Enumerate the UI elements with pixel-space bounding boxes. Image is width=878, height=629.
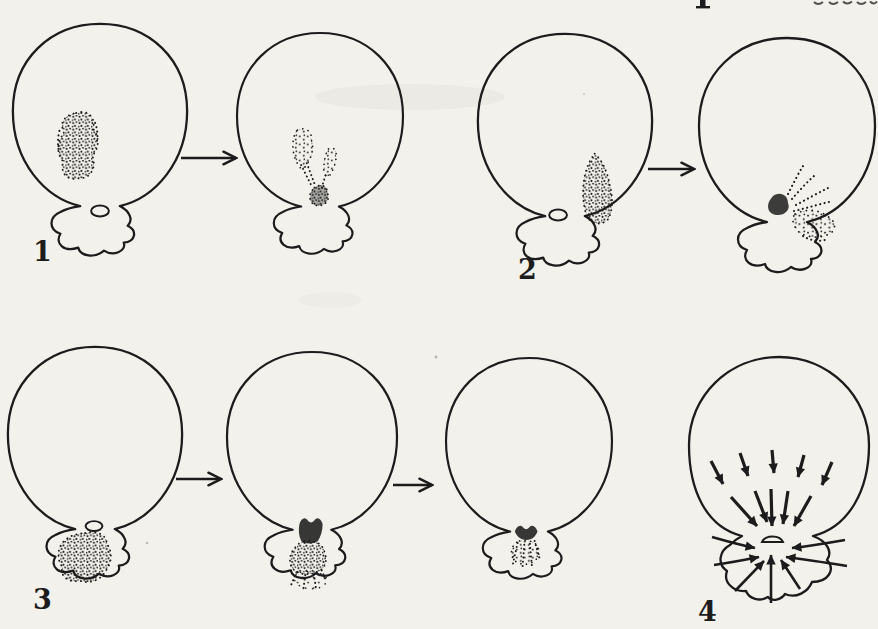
stipple-region — [583, 154, 612, 224]
figure-3-cell-third — [446, 358, 612, 579]
figure-1-cell-after — [237, 33, 403, 254]
stipple-sparse-fade — [294, 571, 326, 588]
figure-label-3: 3 — [33, 584, 52, 615]
converging-arrows-lower — [731, 489, 811, 526]
stipple-dense-core-shade — [310, 185, 328, 205]
figure-1-cell-before — [13, 24, 187, 256]
flow-arrow — [786, 557, 847, 566]
converging-arrows-upper — [711, 450, 832, 485]
cell-outline — [478, 34, 652, 266]
stipple-stream-left — [293, 129, 313, 169]
opening-oval — [91, 206, 109, 217]
stipple-region — [512, 540, 539, 564]
figure-4-group: 4 — [689, 357, 869, 627]
stipple-dense-core — [768, 194, 789, 215]
opening-oval — [549, 210, 567, 221]
stipple-region — [58, 112, 98, 179]
flow-arrow — [781, 560, 800, 589]
flow-arrow — [772, 450, 774, 473]
figure-2-group: 2 — [478, 34, 875, 285]
figure-label-4: 4 — [698, 596, 717, 627]
figure-label-2: 2 — [518, 254, 537, 285]
stipple-region — [58, 532, 110, 582]
figure-3-cell-first — [8, 347, 182, 582]
figure-label-1: 1 — [33, 236, 52, 267]
flow-arrow — [798, 455, 804, 477]
flow-arrow — [783, 491, 788, 524]
flow-arrow — [712, 537, 755, 548]
stipple-dark-cap — [515, 526, 538, 540]
stipple-region — [290, 541, 326, 574]
stipple-stream-right — [324, 148, 336, 176]
flow-arrow — [755, 491, 767, 522]
flow-arrow — [792, 540, 845, 548]
diagram-canvas: 1 2 — [0, 0, 878, 629]
flow-arrow — [794, 496, 811, 526]
cell-outline — [13, 24, 187, 256]
opening-oval — [86, 521, 103, 531]
figure-3-group: 3 — [8, 347, 612, 615]
flow-arrow — [740, 453, 748, 476]
figure-2-cell-before — [478, 34, 652, 266]
stipple-dark-cap — [299, 518, 323, 543]
figure-2-cell-after — [699, 38, 875, 272]
flow-arrow — [771, 489, 772, 526]
flow-arrow — [711, 461, 723, 484]
figure-3-cell-second — [227, 352, 397, 590]
stipple-streaks — [788, 166, 833, 211]
opening-half-oval — [762, 536, 783, 542]
scanned-figure-page: 1 2 — [0, 0, 878, 629]
flow-arrow — [731, 497, 757, 526]
cell-outline — [699, 38, 875, 272]
figure-1-group: 1 — [13, 24, 403, 267]
cell-outline — [237, 33, 403, 254]
paper-smudges — [146, 84, 585, 544]
cropped-text-remnant — [696, 0, 877, 8]
flow-arrow — [735, 561, 764, 591]
flow-arrow — [822, 462, 832, 485]
